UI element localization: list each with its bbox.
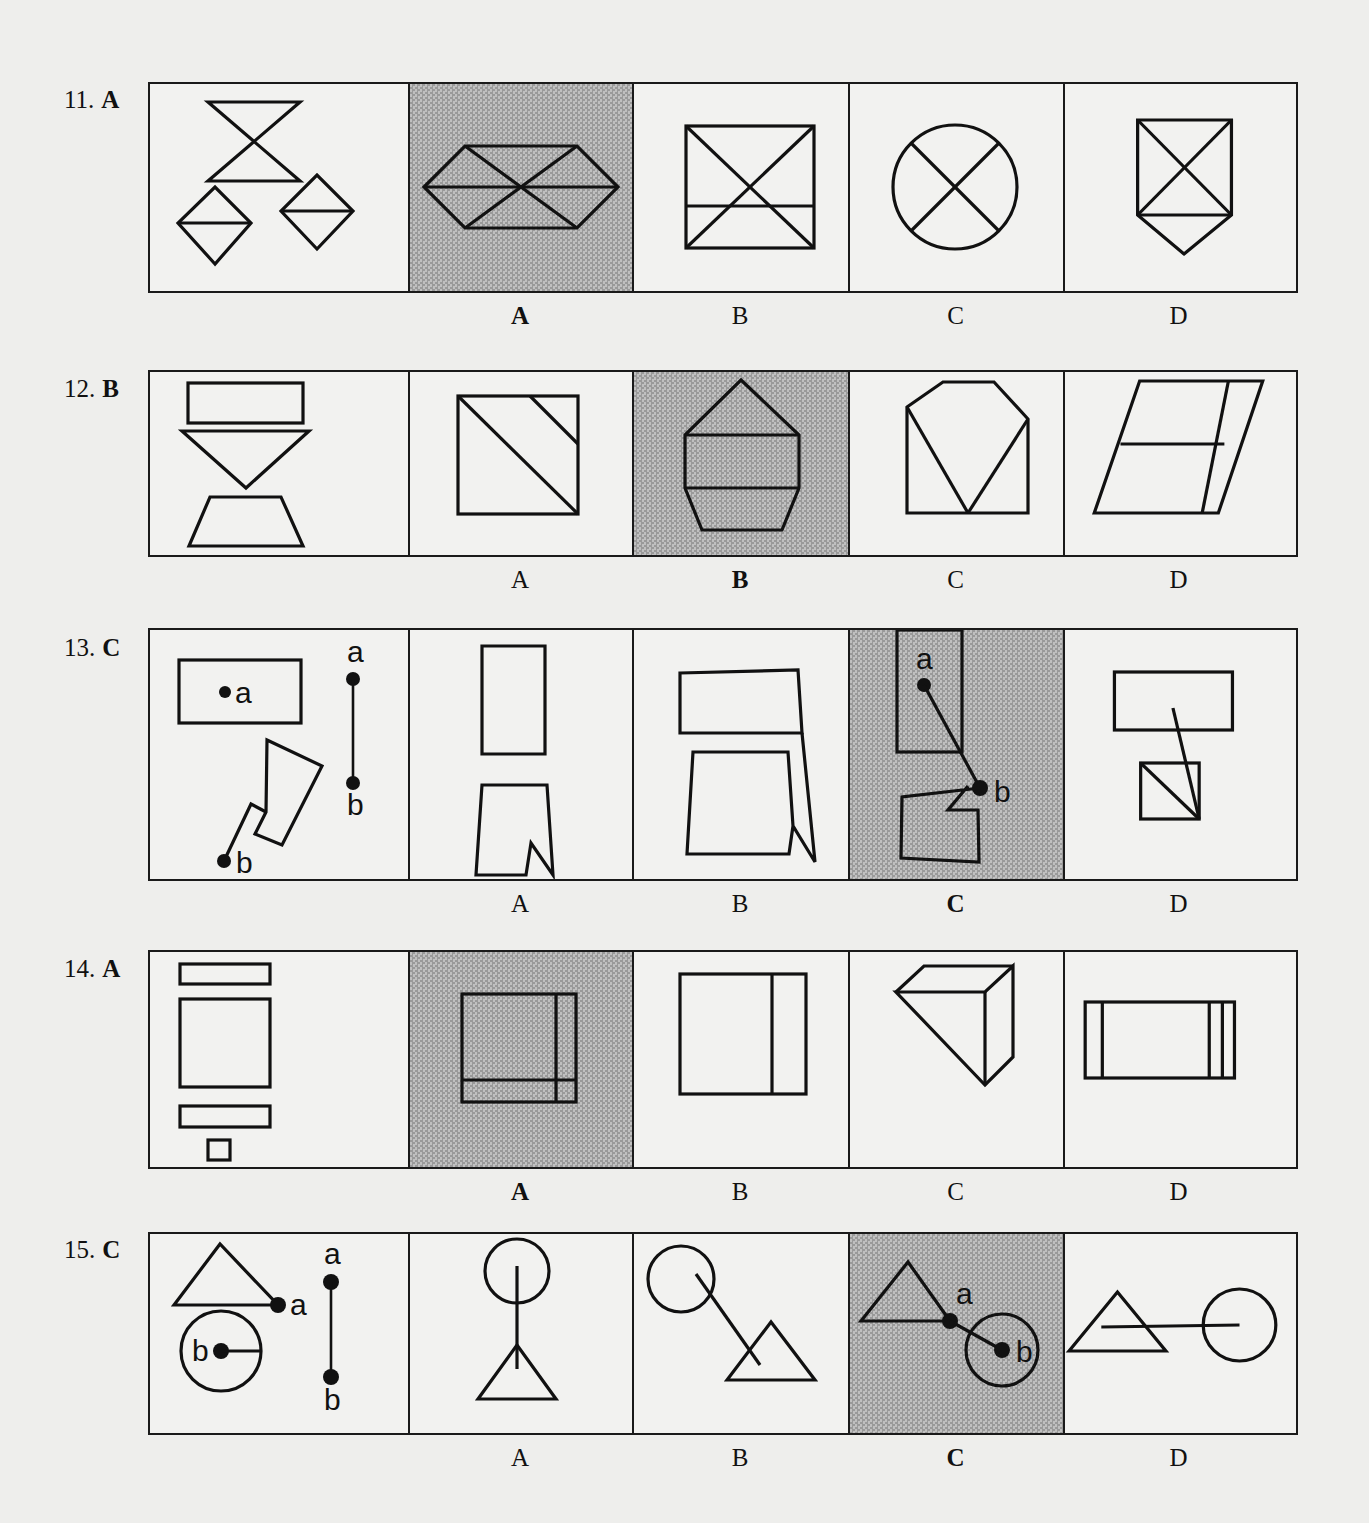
question-answer: B — [102, 375, 119, 402]
prompt-point-label-a: a — [290, 1288, 307, 1321]
options-grid-12 — [148, 370, 1298, 557]
option-cell-14-B[interactable] — [634, 952, 850, 1167]
option-cell-13-D[interactable] — [1065, 630, 1296, 879]
option-cell-11-C[interactable] — [850, 84, 1065, 291]
option-letter-13-A: A — [408, 891, 632, 916]
option-cell-13-A[interactable] — [410, 630, 634, 879]
option-labels-14: A B C D — [408, 1179, 1298, 1204]
question-number: 15. — [64, 1236, 95, 1263]
option-labels-11: A B C D — [408, 303, 1298, 328]
question-label-13: 13.C — [64, 634, 120, 662]
option-cell-15-B[interactable] — [634, 1234, 850, 1433]
option-letter-14-A: A — [408, 1179, 632, 1204]
option-cell-12-D[interactable] — [1065, 372, 1296, 555]
option-cell-11-D[interactable] — [1065, 84, 1296, 291]
prompt-cell-13: a b a b — [150, 630, 410, 879]
option-cell-11-A[interactable] — [410, 84, 634, 291]
connector-label-a: a — [347, 635, 364, 668]
option-letter-15-C: C — [848, 1445, 1063, 1470]
option-letter-12-A: A — [408, 567, 632, 592]
option-cell-15-C[interactable]: a b — [850, 1234, 1065, 1433]
option-cell-12-C[interactable] — [850, 372, 1065, 555]
option-letter-15-A: A — [408, 1445, 632, 1470]
option-letter-11-C: C — [848, 303, 1063, 328]
option-letter-12-D: D — [1063, 567, 1294, 592]
option-letter-11-D: D — [1063, 303, 1294, 328]
prompt-point-label-b: b — [236, 846, 253, 879]
options-grid-14 — [148, 950, 1298, 1169]
option-cell-15-D[interactable] — [1065, 1234, 1296, 1433]
option-letter-14-D: D — [1063, 1179, 1294, 1204]
options-grid-13: a b a b — [148, 628, 1298, 881]
option-labels-13: A B C D — [408, 891, 1298, 916]
option-letter-12-B: B — [632, 567, 848, 592]
question-answer: C — [102, 1236, 120, 1263]
prompt-point-label-b: b — [192, 1334, 209, 1367]
option-cell-15-A[interactable] — [410, 1234, 634, 1433]
options-grid-11 — [148, 82, 1298, 293]
question-answer: A — [101, 86, 119, 113]
option-letter-14-C: C — [848, 1179, 1063, 1204]
option-letter-15-B: B — [632, 1445, 848, 1470]
test-page: 11.A — [0, 0, 1369, 1523]
question-label-15: 15.C — [64, 1236, 120, 1264]
prompt-cell-12 — [150, 372, 410, 555]
prompt-cell-11 — [150, 84, 410, 291]
option-letter-14-B: B — [632, 1179, 848, 1204]
option-cell-13-B[interactable] — [634, 630, 850, 879]
option-point-label-b: b — [994, 775, 1011, 808]
question-label-11: 11.A — [64, 86, 119, 114]
connector-label-b: b — [324, 1383, 341, 1416]
prompt-cell-15: a b a b — [150, 1234, 410, 1433]
question-answer: A — [102, 955, 120, 982]
option-letter-13-D: D — [1063, 891, 1294, 916]
options-grid-15: a b a b — [148, 1232, 1298, 1435]
question-answer: C — [102, 634, 120, 661]
option-cell-14-D[interactable] — [1065, 952, 1296, 1167]
option-letter-15-D: D — [1063, 1445, 1294, 1470]
question-number: 11. — [64, 86, 94, 113]
question-number: 12. — [64, 375, 95, 402]
option-cell-11-B[interactable] — [634, 84, 850, 291]
option-cell-14-C[interactable] — [850, 952, 1065, 1167]
option-point-label-a: a — [916, 642, 933, 675]
option-letter-13-C: C — [848, 891, 1063, 916]
option-letter-13-B: B — [632, 891, 848, 916]
question-label-12: 12.B — [64, 375, 119, 403]
prompt-point-label-a: a — [235, 676, 252, 709]
option-labels-15: A B C D — [408, 1445, 1298, 1470]
option-cell-14-A[interactable] — [410, 952, 634, 1167]
option-cell-12-B[interactable] — [634, 372, 850, 555]
question-number: 13. — [64, 634, 95, 661]
option-letter-11-B: B — [632, 303, 848, 328]
question-label-14: 14.A — [64, 955, 120, 983]
prompt-cell-14 — [150, 952, 410, 1167]
option-cell-12-A[interactable] — [410, 372, 634, 555]
option-letter-12-C: C — [848, 567, 1063, 592]
option-cell-13-C[interactable]: a b — [850, 630, 1065, 879]
question-number: 14. — [64, 955, 95, 982]
connector-label-a: a — [324, 1237, 341, 1270]
option-labels-12: A B C D — [408, 567, 1298, 592]
option-letter-11-A: A — [408, 303, 632, 328]
connector-label-b: b — [347, 788, 364, 821]
option-point-label-b: b — [1016, 1335, 1033, 1368]
option-point-label-a: a — [956, 1277, 973, 1310]
